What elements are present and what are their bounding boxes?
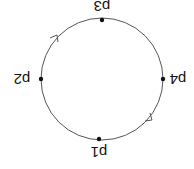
circle-path [41,18,163,140]
label-p4: p4 [170,71,187,88]
point-p2 [39,77,43,81]
point-p4 [161,77,165,81]
arrow-lower-right-icon [145,113,152,121]
point-p3 [100,18,104,22]
circle-diagram: p1 p2 p3 p4 [0,0,194,169]
label-p1: p1 [91,144,108,161]
label-p2: p2 [14,71,31,88]
label-p3: p3 [94,0,111,15]
point-p1 [97,137,101,141]
